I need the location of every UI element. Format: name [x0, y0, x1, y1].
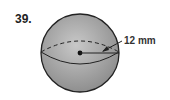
sphere-figure — [0, 0, 170, 100]
radius-label: 12 mm — [124, 35, 156, 46]
